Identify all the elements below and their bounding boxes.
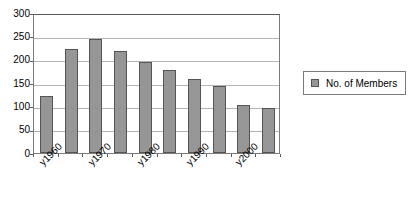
x-tick-mark: [280, 154, 281, 157]
x-tick-mark: [157, 154, 158, 157]
x-tick-mark: [107, 154, 108, 157]
x-tick-mark: [181, 154, 182, 157]
bar: [65, 49, 78, 153]
y-axis-tick-marks: [0, 0, 30, 198]
plot-area: [33, 14, 280, 154]
x-tick-mark: [82, 154, 83, 157]
bars-layer: [34, 15, 279, 153]
bar: [188, 79, 201, 153]
x-tick-mark: [33, 154, 34, 157]
bar: [262, 108, 275, 153]
x-tick-mark: [255, 154, 256, 157]
x-axis: y1960 y1970 y1980 y1990 y2000: [33, 154, 280, 198]
legend-swatch-icon: [311, 79, 319, 87]
bar: [114, 51, 127, 153]
legend: No. of Members: [303, 71, 406, 95]
bar: [89, 39, 102, 153]
x-tick-mark: [206, 154, 207, 157]
x-tick-mark: [58, 154, 59, 157]
bar: [163, 70, 176, 153]
legend-label: No. of Members: [326, 78, 397, 89]
bar-chart: 300 250 200 150 100 50 0: [0, 0, 413, 198]
bar: [139, 62, 152, 153]
x-tick-mark: [132, 154, 133, 157]
x-tick-mark: [231, 154, 232, 157]
bar: [213, 86, 226, 153]
